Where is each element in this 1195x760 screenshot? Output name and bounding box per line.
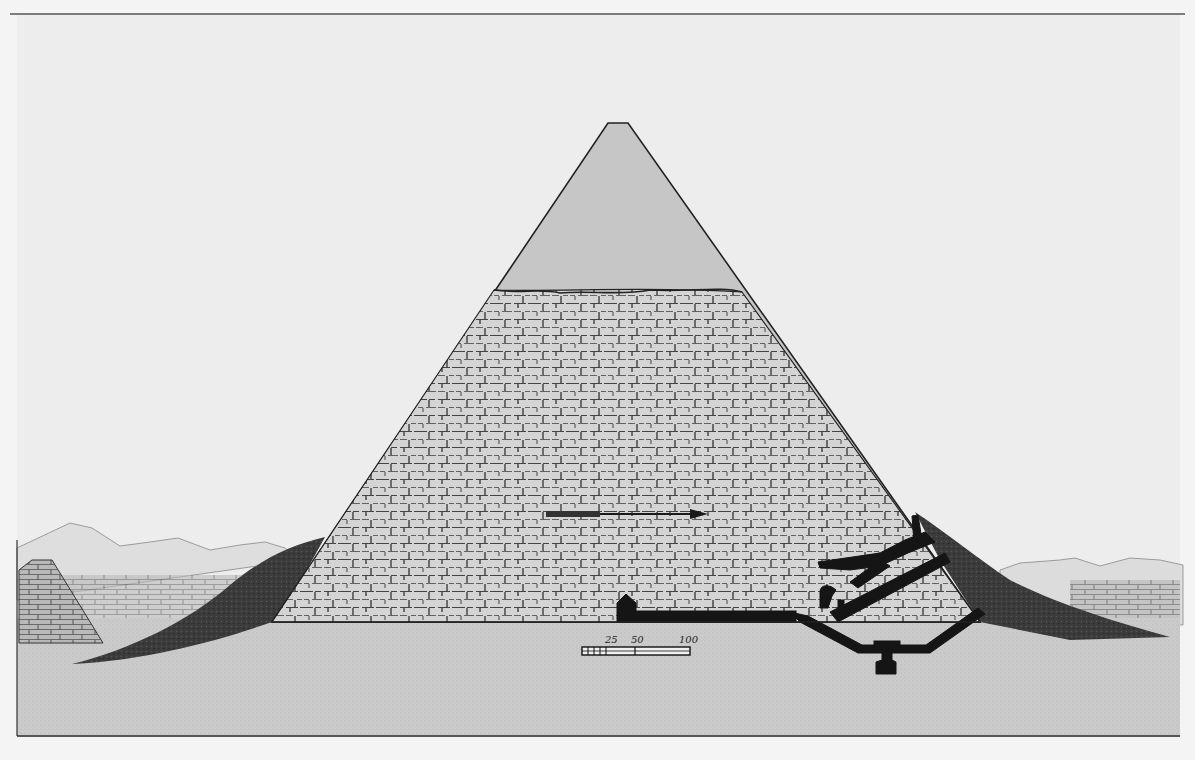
- pyramid-section-engraving: 25 50 100: [0, 0, 1195, 760]
- subterranean-chamber: [874, 641, 900, 650]
- scale-label-25: 25: [604, 634, 618, 645]
- base-passage: [636, 611, 796, 622]
- shaft-niche: [838, 600, 844, 610]
- scale-label-50: 50: [631, 634, 644, 645]
- scale-label-100: 100: [679, 634, 699, 645]
